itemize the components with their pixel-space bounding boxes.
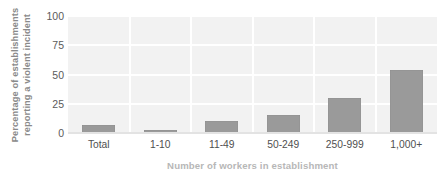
x-axis-tick-labels: Total1-1011-4950-249250-9991,000+ [68, 139, 437, 153]
x-axis-baseline [68, 132, 437, 134]
y-axis-tick-label: 0 [38, 128, 64, 139]
y-axis-tick-label: 75 [38, 40, 64, 51]
x-axis-tick-label: Total [68, 139, 130, 151]
bar-chart: Percentage of establishments reporting a… [0, 0, 443, 180]
y-axis-tick-label: 100 [38, 11, 64, 22]
bar [328, 98, 361, 133]
bar [267, 115, 300, 133]
y-axis-tick-label: 25 [38, 99, 64, 110]
plot-area [68, 16, 437, 133]
x-axis-title: Number of workers in establishment [68, 160, 437, 172]
x-axis-tick-label: 11-49 [191, 139, 253, 151]
x-axis-tick-label: 1,000+ [376, 139, 438, 151]
bar-series [68, 16, 437, 133]
y-axis-title-line-1: Percentage of establishments [10, 1, 22, 149]
x-axis-tick-label: 1-10 [130, 139, 192, 151]
y-axis-tick-label: 50 [38, 70, 64, 81]
x-axis-tick-label: 250-999 [314, 139, 376, 151]
y-axis-tick-labels: 1007550250 [38, 0, 64, 140]
bar [390, 70, 423, 133]
x-axis-tick-label: 50-249 [253, 139, 315, 151]
y-axis-title: Percentage of establishments reporting a… [0, 0, 42, 150]
y-axis-title-line-2: reporting a violent incident [21, 1, 33, 149]
